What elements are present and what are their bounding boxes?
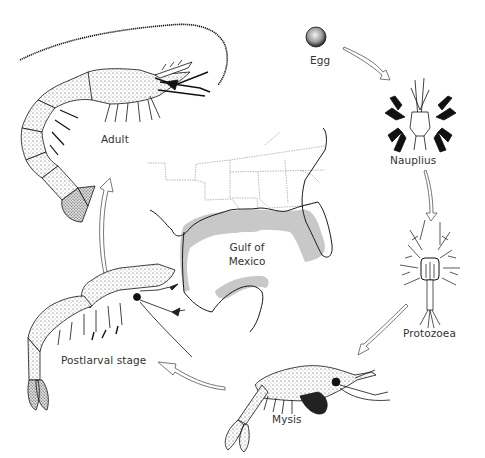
map-label-gulf-of-mexico: Gulf of Mexico	[212, 240, 282, 268]
stage-label-postlarval: Postlarval stage	[61, 354, 146, 366]
arrow-protozoea-to-mysis	[358, 304, 408, 355]
postlarval-illustration	[28, 264, 192, 410]
nauplius-illustration	[385, 78, 456, 152]
stage-label-egg: Egg	[310, 54, 330, 66]
adult-illustration	[20, 24, 227, 222]
illustration-layer	[0, 0, 485, 458]
stage-label-mysis: Mysis	[272, 413, 302, 425]
stage-label-adult: Adult	[101, 133, 129, 145]
stage-label-protozoea: Protozoea	[403, 327, 456, 339]
shrimp-life-cycle-diagram: Egg Nauplius Protozoea Mysis Postlarval …	[0, 0, 485, 458]
protozoea-illustration	[400, 220, 460, 328]
arrow-mysis-to-postlarval	[158, 362, 225, 390]
arrow-postlarval-to-adult	[100, 178, 113, 278]
arrow-egg-to-nauplius	[343, 47, 390, 80]
egg-illustration	[306, 27, 326, 47]
map-label-line1: Gulf of	[212, 240, 282, 254]
gulf-of-mexico-map	[148, 128, 332, 332]
map-label-line2: Mexico	[212, 254, 282, 268]
mysis-illustration	[225, 366, 390, 452]
stage-label-nauplius: Nauplius	[390, 154, 436, 166]
arrow-nauplius-to-protozoea	[424, 170, 437, 221]
